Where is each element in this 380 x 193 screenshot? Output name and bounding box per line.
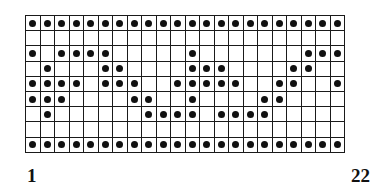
pattern-cell-empty[interactable] (258, 31, 273, 46)
pattern-cell-empty[interactable] (84, 31, 99, 46)
pattern-cell-empty[interactable] (200, 107, 215, 122)
pattern-cell-dot[interactable] (69, 16, 84, 31)
pattern-cell-empty[interactable] (142, 76, 157, 91)
pattern-cell-empty[interactable] (98, 31, 113, 46)
pattern-cell-empty[interactable] (316, 122, 331, 137)
pattern-cell-empty[interactable] (127, 31, 142, 46)
pattern-cell-empty[interactable] (229, 46, 244, 61)
pattern-cell-dot[interactable] (142, 16, 157, 31)
pattern-cell-dot[interactable] (142, 107, 157, 122)
pattern-cell-empty[interactable] (40, 46, 55, 61)
pattern-cell-dot[interactable] (113, 76, 128, 91)
pattern-cell-empty[interactable] (258, 61, 273, 76)
pattern-cell-empty[interactable] (229, 31, 244, 46)
pattern-cell-empty[interactable] (142, 46, 157, 61)
pattern-cell-empty[interactable] (113, 91, 128, 106)
pattern-cell-dot[interactable] (200, 16, 215, 31)
pattern-cell-empty[interactable] (316, 61, 331, 76)
pattern-cell-empty[interactable] (127, 107, 142, 122)
pattern-cell-empty[interactable] (330, 61, 345, 76)
pattern-cell-empty[interactable] (330, 91, 345, 106)
pattern-cell-dot[interactable] (55, 46, 70, 61)
pattern-cell-dot[interactable] (243, 137, 258, 152)
pattern-cell-dot[interactable] (287, 16, 302, 31)
pattern-cell-empty[interactable] (243, 31, 258, 46)
pattern-cell-empty[interactable] (200, 91, 215, 106)
pattern-cell-empty[interactable] (243, 76, 258, 91)
pattern-cell-dot[interactable] (142, 137, 157, 152)
pattern-cell-dot[interactable] (258, 16, 273, 31)
pattern-cell-empty[interactable] (84, 122, 99, 137)
pattern-cell-empty[interactable] (55, 107, 70, 122)
pattern-cell-empty[interactable] (156, 122, 171, 137)
pattern-cell-empty[interactable] (258, 46, 273, 61)
pattern-cell-empty[interactable] (26, 31, 41, 46)
pattern-cell-empty[interactable] (142, 122, 157, 137)
pattern-cell-empty[interactable] (171, 31, 186, 46)
pattern-cell-empty[interactable] (142, 31, 157, 46)
pattern-cell-dot[interactable] (185, 137, 200, 152)
pattern-cell-dot[interactable] (330, 46, 345, 61)
pattern-cell-dot[interactable] (330, 76, 345, 91)
pattern-cell-empty[interactable] (287, 91, 302, 106)
pattern-cell-empty[interactable] (200, 122, 215, 137)
pattern-cell-empty[interactable] (84, 107, 99, 122)
pattern-cell-dot[interactable] (171, 107, 186, 122)
pattern-cell-empty[interactable] (258, 76, 273, 91)
pattern-cell-dot[interactable] (214, 107, 229, 122)
pattern-cell-dot[interactable] (55, 76, 70, 91)
pattern-cell-dot[interactable] (55, 137, 70, 152)
pattern-cell-empty[interactable] (171, 46, 186, 61)
pattern-cell-empty[interactable] (55, 31, 70, 46)
pattern-cell-empty[interactable] (26, 122, 41, 137)
pattern-cell-empty[interactable] (316, 91, 331, 106)
pattern-cell-dot[interactable] (84, 137, 99, 152)
pattern-cell-empty[interactable] (330, 31, 345, 46)
pattern-cell-dot[interactable] (84, 16, 99, 31)
pattern-cell-dot[interactable] (185, 16, 200, 31)
pattern-cell-dot[interactable] (171, 76, 186, 91)
pattern-cell-empty[interactable] (287, 107, 302, 122)
pattern-cell-dot[interactable] (214, 16, 229, 31)
pattern-cell-dot[interactable] (258, 107, 273, 122)
pattern-cell-dot[interactable] (316, 16, 331, 31)
pattern-cell-dot[interactable] (185, 91, 200, 106)
pattern-cell-dot[interactable] (316, 137, 331, 152)
pattern-cell-empty[interactable] (258, 122, 273, 137)
pattern-cell-dot[interactable] (69, 76, 84, 91)
pattern-cell-empty[interactable] (171, 61, 186, 76)
pattern-cell-dot[interactable] (229, 137, 244, 152)
pattern-cell-dot[interactable] (26, 16, 41, 31)
pattern-cell-empty[interactable] (84, 61, 99, 76)
pattern-cell-dot[interactable] (98, 46, 113, 61)
pattern-cell-dot[interactable] (185, 46, 200, 61)
pattern-cell-dot[interactable] (69, 46, 84, 61)
pattern-cell-empty[interactable] (69, 91, 84, 106)
pattern-cell-dot[interactable] (214, 137, 229, 152)
pattern-cell-dot[interactable] (214, 61, 229, 76)
pattern-cell-dot[interactable] (272, 137, 287, 152)
pattern-cell-empty[interactable] (55, 61, 70, 76)
pattern-cell-empty[interactable] (40, 122, 55, 137)
pattern-cell-dot[interactable] (26, 76, 41, 91)
pattern-cell-empty[interactable] (127, 61, 142, 76)
pattern-cell-empty[interactable] (55, 122, 70, 137)
pattern-cell-dot[interactable] (287, 61, 302, 76)
pattern-cell-empty[interactable] (142, 61, 157, 76)
pattern-cell-empty[interactable] (69, 122, 84, 137)
pattern-cell-dot[interactable] (258, 137, 273, 152)
pattern-cell-dot[interactable] (84, 46, 99, 61)
pattern-cell-empty[interactable] (229, 122, 244, 137)
pattern-cell-empty[interactable] (69, 107, 84, 122)
pattern-cell-dot[interactable] (200, 76, 215, 91)
pattern-cell-empty[interactable] (113, 122, 128, 137)
pattern-cell-empty[interactable] (40, 31, 55, 46)
pattern-cell-empty[interactable] (113, 107, 128, 122)
pattern-cell-empty[interactable] (26, 61, 41, 76)
pattern-cell-empty[interactable] (316, 31, 331, 46)
pattern-cell-empty[interactable] (272, 46, 287, 61)
pattern-cell-dot[interactable] (243, 107, 258, 122)
pattern-cell-empty[interactable] (185, 31, 200, 46)
pattern-cell-dot[interactable] (287, 76, 302, 91)
pattern-cell-empty[interactable] (243, 122, 258, 137)
